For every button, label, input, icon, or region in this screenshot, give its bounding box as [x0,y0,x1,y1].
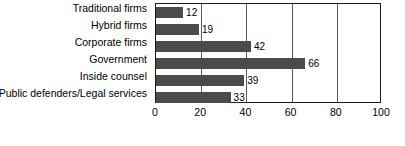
x-tick-label: 40 [240,106,252,118]
category-axis-labels: Traditional firms Hybrid firms Corporate… [0,3,151,103]
x-tick-label: 0 [152,106,158,118]
bar-chart: Traditional firms Hybrid firms Corporate… [0,0,405,146]
bar [156,58,305,69]
bar [156,75,244,86]
gridline [337,4,338,102]
gridline [292,4,293,102]
gridline [246,4,247,102]
x-tick-label: 100 [372,106,390,118]
category-label: Public defenders/Legal services [0,88,147,99]
bar-value-label: 39 [244,75,258,86]
bar-value-label: 33 [231,92,245,103]
bar-value-label: 12 [183,7,197,18]
bar-value-label: 42 [251,41,265,52]
bar-value-label: 66 [305,58,319,69]
category-label: Inside counsel [80,71,147,82]
category-label: Government [89,54,147,65]
plot-area: 12 19 42 66 39 33 [155,3,381,103]
category-label: Corporate firms [75,37,147,48]
x-tick-label: 60 [285,106,297,118]
bar [156,7,183,18]
bar [156,92,231,103]
bar [156,41,251,52]
x-tick-label: 80 [330,106,342,118]
bar [156,24,199,35]
bar-value-label: 19 [199,24,213,35]
gridline [201,4,202,102]
caption [60,132,345,142]
category-label: Traditional firms [73,3,147,14]
x-axis: 0 20 40 60 80 100 [155,104,381,122]
category-label: Hybrid firms [91,20,147,31]
x-tick-label: 20 [194,106,206,118]
